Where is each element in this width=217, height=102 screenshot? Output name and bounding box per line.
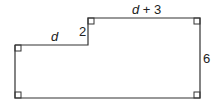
label-step-height: 2: [79, 24, 86, 39]
right-angle-marker: [15, 92, 21, 98]
right-angle-marker: [15, 45, 21, 51]
right-angle-marker: [194, 92, 200, 98]
right-angle-marker: [88, 18, 94, 24]
label-d: d: [51, 29, 59, 44]
right-angle-marker: [194, 18, 200, 24]
label-right-side: 6: [203, 51, 210, 66]
label-top-side: d + 3: [132, 2, 161, 17]
diagram-canvas: d 2 d + 3 6: [0, 0, 217, 102]
figure-outline: [15, 18, 200, 98]
label-top-rest: + 3: [139, 2, 161, 17]
